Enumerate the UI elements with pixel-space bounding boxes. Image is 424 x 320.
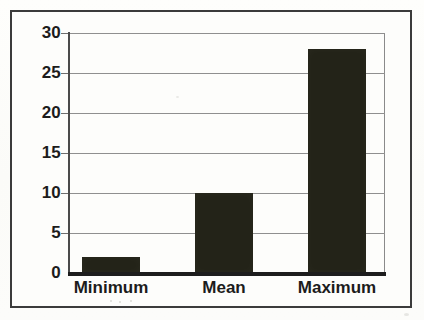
y-axis-tick-labels: 0 5 10 15 20 25 30 [20,0,61,320]
tick-mark-30 [61,33,68,34]
scan-speckle [119,301,121,303]
y-tick-label-0: 0 [51,263,61,283]
scan-speckle [110,300,112,302]
y-axis-line [68,32,70,274]
bars-layer [68,33,385,273]
y-tick-label-10: 10 [42,183,61,203]
y-tick-label-25: 25 [42,63,61,83]
y-tick-label-5: 5 [51,223,61,243]
x-axis-category-labels: Minimum Mean Maximum [68,278,385,306]
y-tick-label-30: 30 [42,23,61,43]
scan-speckle [130,300,132,302]
bar-minimum[interactable] [82,257,140,273]
x-label-maximum: Maximum [298,278,376,298]
scan-speckle [176,96,179,98]
tick-mark-5 [61,233,68,234]
scan-speckle [404,313,409,316]
tick-mark-10 [61,193,68,194]
tick-mark-25 [61,73,68,74]
x-label-minimum: Minimum [74,278,149,298]
y-tick-label-20: 20 [42,103,61,123]
y-tick-label-15: 15 [42,143,61,163]
bar-mean[interactable] [195,193,253,273]
chart-screenshot: 0 5 10 15 20 25 30 Minimum Mean Maximum [0,0,424,320]
tick-mark-20 [61,113,68,114]
bar-maximum[interactable] [308,49,366,273]
x-label-mean: Mean [202,278,245,298]
tick-mark-15 [61,153,68,154]
x-axis-baseline [68,272,386,276]
